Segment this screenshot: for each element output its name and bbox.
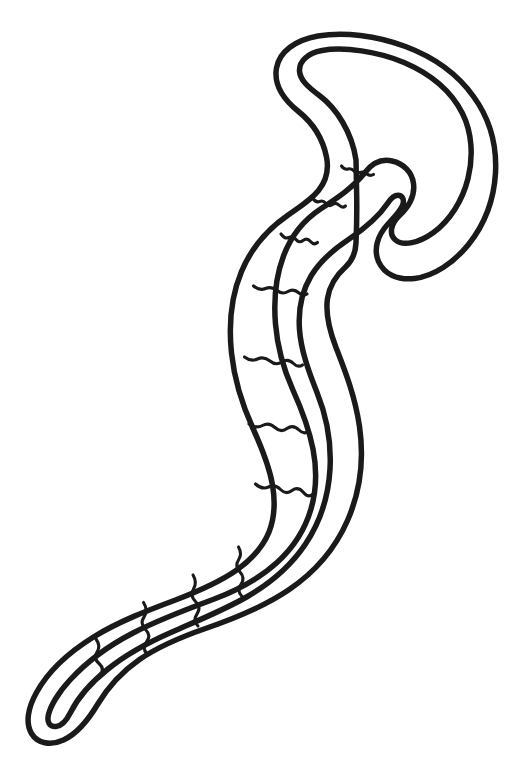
illustration-canvas: Segmented Worm Line Drawing	[0, 0, 512, 779]
worm-illustration	[0, 0, 512, 779]
